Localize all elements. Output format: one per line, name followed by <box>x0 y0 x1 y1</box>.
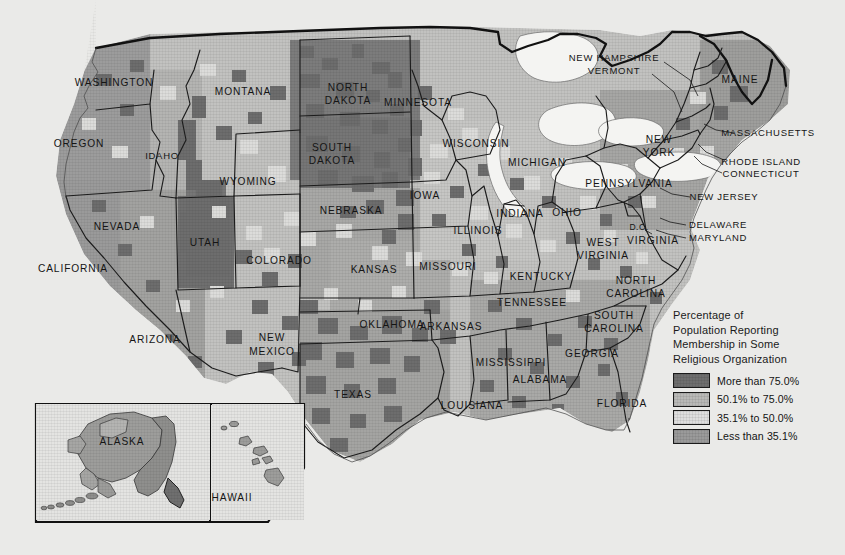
callout-label: NEW HAMPSHIRE <box>569 52 659 63</box>
state-label: INDIANA <box>496 208 544 219</box>
state-label: ARIZONA <box>129 334 181 345</box>
state-label: NORTH <box>616 275 657 286</box>
us-map-svg: WASHINGTONOREGONIDAHOMONTANAWYOMINGNEVAD… <box>0 0 845 555</box>
inset-label: HAWAII <box>212 492 253 503</box>
legend-row: 35.1% to 50.0% <box>673 410 823 425</box>
legend-title-line: Membership in Some <box>673 337 823 352</box>
state-label: PENNSYLVANIA <box>585 178 672 189</box>
state-label: COLORADO <box>246 255 312 266</box>
legend-swatch <box>673 373 710 388</box>
map-page: WASHINGTONOREGONIDAHOMONTANAWYOMINGNEVAD… <box>0 0 845 555</box>
legend-row: 50.1% to 75.0% <box>673 392 823 407</box>
state-label: MISSISSIPPI <box>476 357 546 368</box>
legend-label: Less than 35.1% <box>717 430 797 442</box>
map-legend: Percentage of Population Reporting Membe… <box>673 308 823 447</box>
legend-row: More than 75.0% <box>673 373 823 388</box>
legend-swatch <box>673 429 710 444</box>
state-label: SOUTH <box>594 310 634 321</box>
legend-title-line: Percentage of <box>673 308 823 323</box>
inset-alaska-hawaii: ALASKAHAWAII <box>36 404 305 522</box>
state-label: WYOMING <box>219 176 276 187</box>
legend-title-line: Population Reporting <box>673 323 823 338</box>
state-label: WASHINGTON <box>75 77 154 88</box>
state-label: NEBRASKA <box>320 205 383 216</box>
state-label: MEXICO <box>249 346 295 357</box>
state-label: TEXAS <box>334 389 372 400</box>
state-label: WISCONSIN <box>443 138 510 149</box>
state-label: NEW <box>646 134 672 145</box>
state-label: KENTUCKY <box>510 271 573 282</box>
state-label: WEST <box>586 237 619 248</box>
legend-label: 50.1% to 75.0% <box>717 393 793 405</box>
callout-label: VERMONT <box>588 65 640 76</box>
legend-label: 35.1% to 50.0% <box>717 412 793 424</box>
state-label: OKLAHOMA <box>360 319 425 330</box>
state-label: VIRGINIA <box>627 235 679 246</box>
state-label: MAINE <box>722 74 759 85</box>
state-label: NORTH <box>328 82 369 93</box>
state-label: UTAH <box>190 237 221 248</box>
state-label: OREGON <box>54 138 105 149</box>
legend-title-line: Religious Organization <box>673 352 823 367</box>
inset-label: ALASKA <box>99 436 144 447</box>
legend-items: More than 75.0%50.1% to 75.0%35.1% to 50… <box>673 373 823 444</box>
state-label: IDAHO <box>145 150 179 161</box>
callout-label: DELAWARE <box>689 219 747 230</box>
state-label: DAKOTA <box>325 95 372 106</box>
state-label: MISSOURI <box>419 261 477 272</box>
state-label: OHIO <box>552 207 582 218</box>
state-label: KANSAS <box>351 264 398 275</box>
state-label: GEORGIA <box>565 348 619 359</box>
state-label: MONTANA <box>215 86 271 97</box>
state-label: IOWA <box>410 190 440 201</box>
callout-label: RHODE ISLAND <box>721 156 801 167</box>
state-label: CAROLINA <box>584 323 643 334</box>
legend-swatch <box>673 392 710 407</box>
state-label: LOUISIANA <box>441 400 503 411</box>
state-label: NEVADA <box>94 221 141 232</box>
state-label: FLORIDA <box>597 398 647 409</box>
callout-label: CONNECTICUT <box>723 168 800 179</box>
state-label: ARKANSAS <box>420 321 483 332</box>
state-label: DAKOTA <box>309 155 356 166</box>
legend-swatch <box>673 410 710 425</box>
state-label: ALABAMA <box>513 374 567 385</box>
state-label: SOUTH <box>312 142 352 153</box>
legend-row: Less than 35.1% <box>673 429 823 444</box>
state-label: YORK <box>643 147 675 158</box>
legend-title: Percentage of Population Reporting Membe… <box>673 308 823 366</box>
state-label: CALIFORNIA <box>38 263 108 274</box>
state-label: CAROLINA <box>606 288 665 299</box>
state-label: NEW <box>259 332 285 343</box>
callout-label: MARYLAND <box>689 232 747 243</box>
state-label: TENNESSEE <box>497 297 567 308</box>
state-label: D.C. <box>629 222 648 232</box>
legend-label: More than 75.0% <box>717 375 799 387</box>
callout-label: NEW JERSEY <box>690 191 759 202</box>
state-label: MINNESOTA <box>384 97 452 108</box>
state-label: VIRGINIA <box>577 250 629 261</box>
callout-label: MASSACHUSETTS <box>721 127 815 138</box>
state-label: ILLINOIS <box>453 225 502 236</box>
state-label: MICHIGAN <box>508 157 566 168</box>
